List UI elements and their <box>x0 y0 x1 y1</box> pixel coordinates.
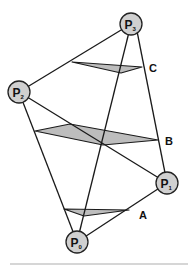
svg-text:P: P <box>71 236 79 250</box>
node-p0: P 0 <box>66 231 88 253</box>
svg-text:P: P <box>161 177 169 191</box>
node-p2: P 2 <box>8 81 30 103</box>
edge-p3-p1 <box>136 26 167 183</box>
cross-section-b <box>35 124 158 145</box>
section-label-c: C <box>149 62 157 74</box>
node-p3: P 3 <box>120 13 142 35</box>
svg-text:P: P <box>13 86 21 100</box>
section-label-b: B <box>165 135 173 147</box>
edge-p3-p2 <box>19 24 131 92</box>
tetrahedron-diagram: C B A P 3 P 2 P 1 P 0 <box>0 0 188 266</box>
cross-section-c <box>72 62 142 73</box>
section-label-a: A <box>139 209 147 221</box>
svg-text:P: P <box>125 18 133 32</box>
node-p1: P 1 <box>156 172 178 194</box>
edge-p2-p0 <box>19 92 77 242</box>
